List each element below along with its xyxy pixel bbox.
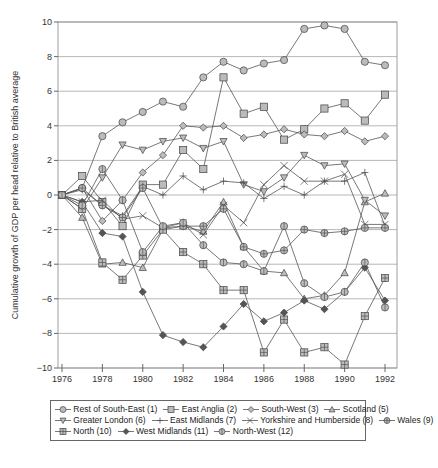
- data-point: [200, 186, 207, 193]
- y-tick-label: −2: [42, 225, 52, 235]
- legend-label: Wales (9): [395, 415, 433, 425]
- legend-label: Yorkshire and Humberside (8): [258, 415, 373, 425]
- x-tick-label: 1978: [92, 374, 112, 384]
- legend-marker-icon: [163, 405, 179, 414]
- data-point: [341, 269, 348, 275]
- legend-item: West Midlands (11): [118, 426, 209, 437]
- data-point: [301, 25, 308, 32]
- data-point: [200, 124, 207, 131]
- series-north-10: [58, 191, 388, 368]
- data-point: [119, 223, 126, 230]
- data-point: [381, 190, 388, 196]
- data-point: [159, 138, 166, 144]
- data-point: [200, 165, 207, 172]
- legend-marker-icon: [55, 427, 71, 436]
- data-point: [157, 418, 163, 424]
- y-axis-label: Cumulative growth of GDP per head relati…: [10, 71, 20, 319]
- data-point: [99, 175, 106, 181]
- x-tick-label: 1990: [335, 374, 355, 384]
- legend-marker-icon: [242, 416, 258, 425]
- legend: Rest of South-East (1) East Anglia (2) S…: [50, 400, 366, 441]
- y-tick-label: 8: [47, 52, 52, 62]
- y-tick-label: 4: [47, 121, 52, 131]
- data-point: [301, 191, 308, 198]
- legend-label: East Midlands (7): [168, 415, 237, 425]
- legend-item: Yorkshire and Humberside (8): [242, 415, 373, 426]
- legend-marker-icon: [152, 416, 168, 425]
- x-tick-label: 1982: [173, 374, 193, 384]
- data-point: [341, 100, 348, 107]
- data-point: [260, 60, 267, 67]
- data-point: [260, 195, 267, 202]
- data-point: [139, 147, 146, 153]
- data-point: [119, 233, 126, 240]
- data-point: [280, 175, 287, 181]
- data-point: [220, 74, 227, 81]
- data-point: [99, 229, 106, 236]
- data-point: [321, 105, 328, 112]
- x-tick-label: 1992: [375, 374, 395, 384]
- x-tick-label: 1986: [254, 374, 274, 384]
- data-point: [139, 288, 146, 295]
- data-point: [99, 133, 106, 140]
- data-point: [240, 110, 247, 117]
- series-line: [62, 195, 385, 365]
- legend-label: Scotland (5): [340, 404, 388, 414]
- legend-marker-icon: [214, 427, 230, 436]
- legend-marker-icon: [118, 427, 134, 436]
- legend-marker-icon: [324, 405, 340, 414]
- legend-item: Scotland (5): [324, 404, 388, 415]
- legend-item: North-West (12): [214, 426, 293, 437]
- legend-marker-icon: [243, 405, 259, 414]
- data-point: [341, 25, 348, 32]
- data-point: [180, 103, 187, 110]
- x-tick-label: 1980: [133, 374, 153, 384]
- x-tick-label: 1976: [52, 374, 72, 384]
- data-point: [381, 297, 388, 304]
- data-point: [361, 117, 368, 124]
- x-tick-label: 1984: [213, 374, 233, 384]
- y-tick-label: −4: [42, 259, 52, 269]
- data-point: [341, 127, 348, 134]
- legend-item: Rest of South-East (1): [55, 404, 157, 415]
- legend-row: Greater London (6) East Midlands (7) Yor…: [55, 415, 361, 426]
- data-point: [200, 74, 207, 81]
- legend-item: Wales (9): [379, 415, 433, 426]
- legend-item: East Midlands (7): [152, 415, 237, 426]
- data-point: [139, 212, 146, 219]
- series-rest-of-south-east-1: [58, 22, 388, 199]
- legend-marker-icon: [55, 405, 71, 414]
- data-point: [119, 119, 126, 126]
- data-point: [123, 429, 129, 435]
- data-point: [321, 133, 328, 140]
- data-point: [200, 145, 207, 151]
- data-point: [321, 163, 328, 169]
- data-point: [260, 131, 267, 138]
- legend-label: Greater London (6): [71, 415, 146, 425]
- line-chart: 1086420−2−4−6−8−101976197819801982198419…: [0, 0, 416, 400]
- data-point: [248, 407, 254, 413]
- data-point: [220, 138, 227, 144]
- data-point: [240, 219, 247, 226]
- data-point: [280, 162, 287, 169]
- legend-row: Rest of South-East (1) East Anglia (2) S…: [55, 404, 361, 415]
- data-point: [280, 126, 287, 133]
- y-tick-label: 2: [47, 155, 52, 165]
- data-point: [159, 332, 166, 339]
- legend-label: West Midlands (11): [134, 426, 209, 436]
- data-point: [280, 183, 287, 190]
- data-point: [381, 133, 388, 140]
- series-wales-9: [58, 184, 388, 257]
- data-point: [280, 309, 287, 316]
- legend-label: East Anglia (2): [179, 404, 237, 414]
- legend-label: South-West (3): [259, 404, 318, 414]
- x-tick-label: 1988: [294, 374, 314, 384]
- data-point: [280, 56, 287, 63]
- data-point: [321, 22, 328, 29]
- legend-row: North (10) West Midlands (11) North-West…: [55, 426, 361, 437]
- legend-label: Rest of South-East (1): [71, 404, 157, 414]
- legend-item: Greater London (6): [55, 415, 146, 426]
- data-point: [381, 62, 388, 69]
- y-tick-label: 0: [47, 190, 52, 200]
- data-point: [341, 171, 348, 178]
